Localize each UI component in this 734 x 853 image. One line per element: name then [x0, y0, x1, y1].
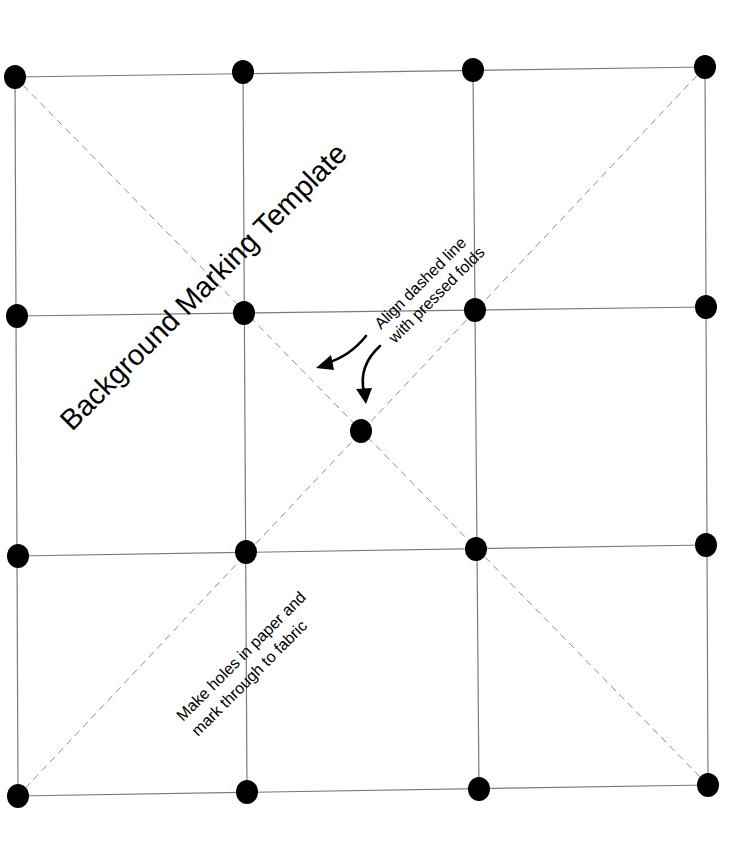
marking-dot [350, 419, 372, 443]
marking-dot [4, 65, 26, 89]
grid-line-horizontal [17, 307, 706, 316]
grid-line-horizontal [15, 67, 705, 77]
curved-arrow-left-icon [316, 336, 366, 370]
grid-line-horizontal [18, 545, 706, 556]
marking-dot [7, 544, 29, 568]
marking-dot [695, 533, 717, 557]
marking-dot [462, 58, 484, 82]
holes-annotation-line1: Make holes in paper and [173, 588, 309, 724]
marking-dot [694, 55, 716, 79]
marking-dot [697, 773, 719, 797]
marking-dot [235, 540, 257, 564]
template-title: Background Marking Template [54, 137, 353, 436]
marking-dot [236, 780, 258, 804]
marking-template-diagram: Background Marking Template Align dashed… [0, 0, 734, 853]
marking-dot [7, 784, 29, 808]
marking-dot [695, 295, 717, 319]
marking-dot [233, 301, 255, 325]
curved-arrow-down-icon [356, 346, 380, 404]
grid-line-horizontal [18, 785, 708, 796]
marking-dot [468, 777, 490, 801]
grid-line-vertical [705, 67, 708, 785]
marking-dots [4, 55, 719, 808]
grid-line-vertical [473, 70, 479, 789]
marking-dot [464, 298, 486, 322]
marking-dot [232, 60, 254, 84]
grid-line-vertical [15, 77, 18, 796]
marking-dot [6, 304, 28, 328]
marking-dot [465, 537, 487, 561]
